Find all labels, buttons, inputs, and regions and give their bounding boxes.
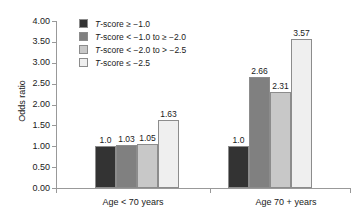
legend-item: T-score ≥ −1.0 bbox=[79, 17, 186, 30]
y-axis-tick-label: 2.00 bbox=[24, 100, 50, 109]
y-axis-tick-label: 3.50 bbox=[24, 37, 50, 46]
legend-item: T-score < −2.0 to > −2.5 bbox=[79, 43, 186, 56]
legend: T-score ≥ −1.0T-score < −1.0 to ≥ −2.0T-… bbox=[79, 17, 186, 69]
legend-item-label: T-score < −2.0 to > −2.5 bbox=[95, 45, 186, 55]
x-axis-tick-mark bbox=[56, 188, 57, 193]
y-axis-tick-label: 0.00 bbox=[24, 184, 50, 193]
y-axis-tick-label: 4.00 bbox=[24, 17, 50, 26]
legend-item-text: -score < −2.0 to > −2.5 bbox=[100, 45, 186, 55]
legend-swatch-icon bbox=[79, 58, 88, 67]
bar bbox=[249, 77, 270, 188]
bar bbox=[116, 145, 137, 188]
y-axis-tick-label: 0.50 bbox=[24, 163, 50, 172]
bar bbox=[158, 120, 179, 188]
legend-item-text: -score ≤ −2.5 bbox=[100, 58, 150, 68]
legend-item-label: T-score ≥ −1.0 bbox=[95, 19, 150, 29]
bar-value-label: 1.05 bbox=[131, 133, 164, 143]
y-axis-tick-label: 1.50 bbox=[24, 121, 50, 130]
bar bbox=[137, 144, 158, 188]
legend-item-label: T-score ≤ −2.5 bbox=[95, 58, 150, 68]
bar-value-label: 2.66 bbox=[243, 66, 276, 76]
bar-value-label: 1.63 bbox=[152, 109, 185, 119]
bar bbox=[228, 146, 249, 188]
x-axis-group-label: Age < 70 years bbox=[73, 197, 193, 207]
y-axis-tick-label: 2.50 bbox=[24, 79, 50, 88]
bar-value-label: 2.31 bbox=[264, 81, 297, 91]
legend-swatch-icon bbox=[79, 45, 88, 54]
bar bbox=[95, 146, 116, 188]
x-axis-line bbox=[56, 188, 351, 189]
bar bbox=[270, 92, 291, 188]
legend-item-label: T-score < −1.0 to ≥ −2.0 bbox=[95, 32, 186, 42]
x-axis-group-label: Age 70 + years bbox=[226, 197, 346, 207]
legend-item-text: -score < −1.0 to ≥ −2.0 bbox=[100, 32, 186, 42]
x-axis-tick-mark bbox=[210, 188, 211, 193]
y-axis-tick-label: 3.00 bbox=[24, 58, 50, 67]
bar bbox=[291, 39, 312, 188]
legend-item: T-score ≤ −2.5 bbox=[79, 56, 186, 69]
legend-item-text: -score ≥ −1.0 bbox=[100, 19, 150, 29]
odds-ratio-bar-chart: Odds ratio 4.003.503.002.502.001.501.000… bbox=[0, 0, 362, 220]
x-axis-tick-mark bbox=[350, 188, 351, 193]
bar-value-label: 3.57 bbox=[285, 28, 318, 38]
y-axis-line bbox=[56, 21, 57, 188]
bar-value-label: 1.0 bbox=[222, 135, 255, 145]
y-axis-tick-label: 1.00 bbox=[24, 142, 50, 151]
legend-swatch-icon bbox=[79, 32, 88, 41]
legend-item: T-score < −1.0 to ≥ −2.0 bbox=[79, 30, 186, 43]
y-axis-tick-labels: 4.003.503.002.502.001.501.000.500.00 bbox=[22, 0, 50, 220]
legend-swatch-icon bbox=[79, 19, 88, 28]
